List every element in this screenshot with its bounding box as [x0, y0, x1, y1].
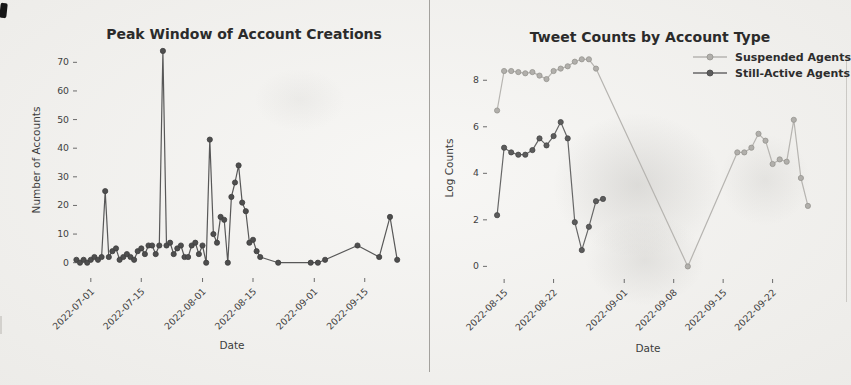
x-tick-label: 2022-08-22 — [513, 287, 559, 333]
data-point-account-creations — [229, 194, 234, 199]
data-point-still-active-agents — [516, 152, 521, 157]
y-tick-label: 50 — [57, 114, 69, 125]
data-point-suspended-agents — [509, 68, 514, 73]
data-point-still-active-agents — [586, 224, 591, 229]
data-point-account-creations — [232, 180, 237, 185]
data-point-account-creations — [222, 217, 227, 222]
legend-label: Still-Active Agents — [735, 67, 851, 80]
data-point-suspended-agents — [763, 138, 768, 143]
data-point-account-creations — [139, 246, 144, 251]
x-tick-label: 2022-09-01 — [274, 286, 320, 332]
legend-marker — [707, 54, 713, 60]
data-point-still-active-agents — [579, 248, 584, 253]
data-point-suspended-agents — [516, 70, 521, 75]
data-point-suspended-agents — [749, 145, 754, 150]
data-point-still-active-agents — [572, 220, 577, 225]
data-point-account-creations — [315, 260, 320, 265]
data-point-account-creations — [207, 137, 212, 142]
data-point-account-creations — [377, 254, 382, 259]
y-tick-label: 40 — [57, 142, 69, 153]
x-tick-label: 2022-08-15 — [464, 287, 510, 333]
x-tick-label: 2022-07-15 — [101, 286, 147, 332]
y-tick-label: 0 — [473, 260, 479, 271]
data-point-still-active-agents — [495, 213, 500, 218]
x-tick-label: 2022-09-15 — [683, 287, 729, 333]
data-point-account-creations — [157, 243, 162, 248]
data-point-suspended-agents — [579, 57, 584, 62]
y-tick-label: 8 — [473, 74, 479, 85]
data-point-account-creations — [186, 254, 191, 259]
y-axis-label: Log Counts — [443, 139, 455, 198]
data-point-suspended-agents — [544, 77, 549, 82]
chart-title: Peak Window of Account Creations — [106, 26, 382, 42]
y-tick-label: 6 — [473, 121, 479, 132]
data-point-account-creations — [243, 209, 248, 214]
data-point-suspended-agents — [685, 264, 690, 269]
data-point-suspended-agents — [770, 161, 775, 166]
data-point-account-creations — [106, 254, 111, 259]
data-point-account-creations — [200, 243, 205, 248]
data-point-suspended-agents — [798, 175, 803, 180]
data-point-suspended-agents — [586, 57, 591, 62]
x-tick-label: 2022-07-01 — [50, 286, 96, 332]
data-point-suspended-agents — [523, 71, 528, 76]
series-line-account-creations — [76, 51, 397, 263]
data-point-still-active-agents — [537, 136, 542, 141]
data-point-account-creations — [142, 252, 147, 257]
x-tick-label: 2022-09-08 — [633, 287, 679, 333]
data-point-suspended-agents — [495, 108, 500, 113]
data-point-account-creations — [236, 163, 241, 168]
y-tick-label: 10 — [57, 228, 69, 239]
data-point-account-creations — [323, 257, 328, 262]
chart-title: Tweet Counts by Account Type — [530, 29, 770, 45]
data-point-still-active-agents — [593, 199, 598, 204]
data-point-account-creations — [355, 243, 360, 248]
data-point-still-active-agents — [558, 120, 563, 125]
data-point-suspended-agents — [735, 150, 740, 155]
tweet-counts-chart: Tweet Counts by Account Type Log Counts … — [429, 0, 851, 385]
data-point-still-active-agents — [544, 143, 549, 148]
data-point-suspended-agents — [784, 159, 789, 164]
data-point-suspended-agents — [551, 68, 556, 73]
data-point-account-creations — [103, 189, 108, 194]
plot-area: 2022-08-152022-08-222022-09-012022-09-08… — [464, 51, 851, 333]
data-point-suspended-agents — [742, 150, 747, 155]
data-point-account-creations — [240, 200, 245, 205]
data-point-account-creations — [132, 257, 137, 262]
x-tick-label: 2022-08-15 — [212, 286, 258, 332]
data-point-account-creations — [171, 252, 176, 257]
y-tick-label: 2 — [473, 214, 479, 225]
y-tick-label: 30 — [57, 171, 69, 182]
data-point-suspended-agents — [502, 68, 507, 73]
data-point-account-creations — [387, 214, 392, 219]
y-tick-label: 60 — [57, 85, 69, 96]
data-point-account-creations — [211, 232, 216, 237]
y-tick-label: 4 — [473, 167, 479, 178]
account-creations-chart: Peak Window of Account Creations Number … — [2, 0, 430, 385]
y-tick-label: 0 — [63, 257, 69, 268]
data-point-account-creations — [113, 246, 118, 251]
data-point-account-creations — [258, 254, 263, 259]
data-point-suspended-agents — [530, 70, 535, 75]
data-point-account-creations — [395, 257, 400, 262]
x-tick-label: 2022-08-01 — [162, 286, 208, 332]
plot-area: 2022-07-012022-07-152022-08-012022-08-15… — [50, 48, 400, 331]
series-line-still-active-agents — [497, 122, 603, 250]
data-point-suspended-agents — [756, 131, 761, 136]
data-point-account-creations — [214, 240, 219, 245]
x-tick-label: 2022-09-15 — [324, 286, 370, 332]
data-point-suspended-agents — [805, 203, 810, 208]
data-point-suspended-agents — [558, 66, 563, 71]
data-point-suspended-agents — [593, 66, 598, 71]
data-point-still-active-agents — [565, 136, 570, 141]
data-point-account-creations — [168, 240, 173, 245]
scanned-page: { "page": { "background_color": "#f3f2ef… — [0, 0, 851, 385]
data-point-suspended-agents — [791, 117, 796, 122]
y-tick-label: 20 — [57, 199, 69, 210]
data-point-account-creations — [308, 260, 313, 265]
data-point-account-creations — [254, 249, 259, 254]
x-tick-label: 2022-09-01 — [584, 287, 630, 333]
data-point-still-active-agents — [509, 150, 514, 155]
data-point-account-creations — [196, 252, 201, 257]
legend: Suspended AgentsStill-Active Agents — [693, 51, 851, 80]
